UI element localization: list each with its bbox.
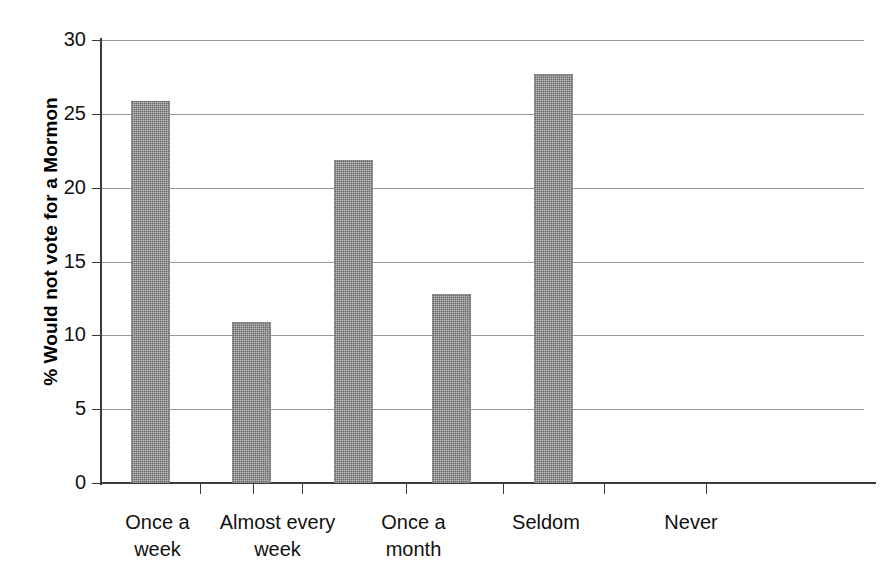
y-tick-label-0: 0 [42,472,86,492]
x-separator-1 [200,483,201,494]
bar-almost-every-week[interactable] [232,322,271,483]
x-separator-7 [706,483,707,494]
y-tick-label-5: 5 [42,398,86,418]
bar-series [101,40,864,483]
y-tick-label-15: 15 [42,251,86,271]
y-tick-label-30: 30 [42,29,86,49]
x-separator-3 [302,483,303,494]
x-label-once-a-week: Once a week [101,509,214,563]
bar-once-a-month[interactable] [334,160,373,483]
bar-chart: % Would not vote for a Mormon 30 25 20 1… [0,0,894,583]
x-label-line-2: week [101,536,214,563]
x-label-almost-every-week: Almost every week [205,509,350,563]
x-label-never: Never [625,509,757,536]
x-label-line-1: Once a [357,509,470,536]
x-separator-5 [503,483,504,494]
x-label-line-1: Once a [101,509,214,536]
x-label-line-2: month [357,536,470,563]
x-label-line-1: Seldom [480,509,612,536]
x-separator-2 [253,483,254,494]
x-label-line-2: week [205,536,350,563]
x-separator-6 [604,483,605,494]
x-label-seldom: Seldom [480,509,612,536]
bar-never[interactable] [534,74,573,483]
x-separator-4 [406,483,407,494]
y-tick-label-25: 25 [42,103,86,123]
y-tick-label-20: 20 [42,177,86,197]
y-tick-label-10: 10 [42,324,86,344]
x-label-once-a-month: Once a month [357,509,470,563]
bar-once-a-week[interactable] [131,101,170,484]
x-label-line-1: Almost every [205,509,350,536]
x-label-line-1: Never [625,509,757,536]
bar-seldom[interactable] [432,294,471,483]
